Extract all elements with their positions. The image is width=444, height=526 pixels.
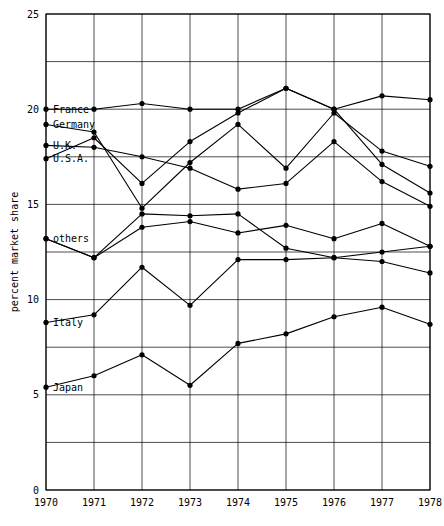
x-tick-label: 1977 [370, 497, 394, 508]
series-others-point [379, 221, 384, 226]
series-japan-point [379, 305, 384, 310]
series-italy-point [283, 257, 288, 262]
series-secondary-mid-point [139, 211, 144, 216]
series-japan-point [139, 352, 144, 357]
series-japan-point [427, 322, 432, 327]
series-japan-point [331, 314, 336, 319]
series-label-japan: Japan [53, 382, 83, 393]
y-tick-label: 0 [33, 485, 39, 496]
y-tick-label: 15 [27, 199, 39, 210]
x-tick-label: 1974 [226, 497, 250, 508]
series-others-point [139, 225, 144, 230]
series-france-point [187, 107, 192, 112]
series-italy-point [91, 312, 96, 317]
x-tick-label: 1976 [322, 497, 346, 508]
series-u-k-point [43, 143, 48, 148]
series-germany-point [187, 160, 192, 165]
series-u-s-a-point [91, 135, 96, 140]
series-france-point [139, 101, 144, 106]
series-u-s-a-point [235, 110, 240, 115]
series-u-s-a-point [427, 190, 432, 195]
series-u-k-point [331, 139, 336, 144]
series-germany-point [139, 206, 144, 211]
series-france-point [379, 93, 384, 98]
series-italy-point [187, 303, 192, 308]
series-japan-point [235, 341, 240, 346]
series-u-k-point [187, 166, 192, 171]
series-germany-point [91, 129, 96, 134]
series-label-others: others [53, 233, 89, 244]
y-tick-label: 10 [27, 294, 39, 305]
series-germany-point [43, 122, 48, 127]
series-u-k-point [235, 187, 240, 192]
x-tick-label: 1978 [418, 497, 442, 508]
series-others-point [283, 223, 288, 228]
y-axis-tick-labels: 0510152025 [27, 9, 39, 496]
series-label-u-s-a: U.S.A. [53, 153, 89, 164]
series-secondary-mid-point [283, 246, 288, 251]
x-tick-label: 1970 [34, 497, 58, 508]
series-secondary-mid-point [235, 211, 240, 216]
series-u-k-point [139, 154, 144, 159]
y-axis-title: percent market share [9, 192, 20, 312]
series-japan-point [283, 331, 288, 336]
series-italy-point [379, 259, 384, 264]
series-u-k-point [283, 181, 288, 186]
x-tick-label: 1972 [130, 497, 154, 508]
series-france-point [427, 97, 432, 102]
series-germany-point [427, 164, 432, 169]
y-tick-label: 20 [27, 104, 39, 115]
x-tick-label: 1971 [82, 497, 106, 508]
series-italy-point [235, 257, 240, 262]
series-italy-point [139, 265, 144, 270]
series-japan-point [187, 383, 192, 388]
series-france-point [91, 107, 96, 112]
series-secondary-mid-point [331, 255, 336, 260]
series-u-s-a-point [187, 139, 192, 144]
series-others-point [187, 219, 192, 224]
series-secondary-mid-point [427, 244, 432, 249]
series-u-s-a-point [379, 162, 384, 167]
series-germany-point [283, 166, 288, 171]
market-share-line-chart: 197019711972197319741975197619771978 051… [0, 0, 444, 526]
series-germany-point [235, 122, 240, 127]
series-germany-point [379, 148, 384, 153]
series-u-k-point [427, 204, 432, 209]
series-japan-point [91, 373, 96, 378]
series-secondary-mid-point [43, 236, 48, 241]
x-tick-label: 1975 [274, 497, 298, 508]
series-others-point [331, 236, 336, 241]
series-u-k-point [379, 179, 384, 184]
series-label-u-k: U.K. [53, 140, 77, 151]
series-italy-point [427, 270, 432, 275]
series-italy-point [43, 320, 48, 325]
series-secondary-mid-point [187, 213, 192, 218]
series-label-germany: Germany [53, 119, 95, 130]
y-tick-label: 5 [33, 389, 39, 400]
y-tick-label: 25 [27, 9, 39, 20]
series-secondary-mid-point [379, 249, 384, 254]
series-others-point [235, 230, 240, 235]
series-u-s-a-point [139, 181, 144, 186]
series-label-italy: Italy [53, 317, 83, 328]
series-label-france: France [53, 104, 89, 115]
series-u-s-a-point [331, 107, 336, 112]
series-secondary-mid-point [91, 255, 96, 260]
series-u-s-a-point [43, 156, 48, 161]
x-tick-label: 1973 [178, 497, 202, 508]
series-u-s-a-point [283, 86, 288, 91]
series-u-k-point [91, 145, 96, 150]
x-axis-tick-labels: 197019711972197319741975197619771978 [34, 497, 442, 508]
series-japan-point [43, 385, 48, 390]
series-france-point [43, 107, 48, 112]
chart-canvas: 197019711972197319741975197619771978 051… [0, 0, 444, 526]
y-axis-title-text: percent market share [9, 192, 20, 312]
